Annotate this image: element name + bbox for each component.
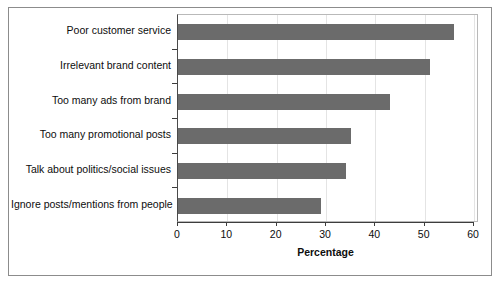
x-tick-label: 30 [310,228,340,240]
bar [178,59,430,75]
x-tick-label: 10 [211,228,241,240]
x-tick [473,222,474,226]
x-tick [226,222,227,226]
category-label: Ignore posts/mentions from people [11,199,171,210]
x-tick [374,222,375,226]
chart-figure: Poor customer serviceIrrelevant brand co… [0,0,500,284]
category-label: Talk about politics/social issues [11,164,171,175]
category-axis-labels: Poor customer serviceIrrelevant brand co… [12,14,175,222]
y-tick [172,118,177,119]
y-tick [172,187,177,188]
x-tick-label: 20 [261,228,291,240]
y-tick [172,49,177,50]
x-tick [424,222,425,226]
bar [178,24,454,40]
category-label: Too many ads from brand [11,95,171,106]
x-tick [177,222,178,226]
bar [178,163,346,179]
bar [178,128,351,144]
x-tick [325,222,326,226]
category-label: Too many promotional posts [11,129,171,140]
category-label: Poor customer service [11,25,171,36]
plot-area [177,14,478,222]
bar [178,94,390,110]
bar [178,198,321,214]
x-axis-title: Percentage [177,246,474,258]
bars-layer [178,15,477,221]
x-tick [276,222,277,226]
x-tick-label: 0 [162,228,192,240]
y-tick [172,153,177,154]
x-tick-label: 50 [409,228,439,240]
x-tick-label: 60 [458,228,488,240]
x-tick-label: 40 [359,228,389,240]
y-tick [172,83,177,84]
category-label: Irrelevant brand content [11,60,171,71]
